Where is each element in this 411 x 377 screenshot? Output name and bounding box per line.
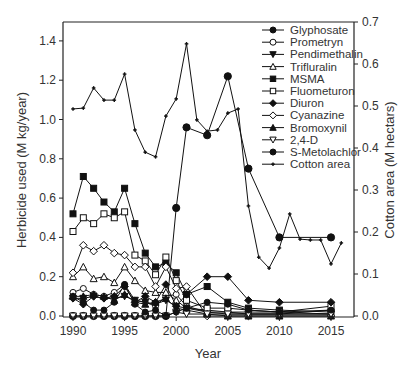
circle-marker-icon — [245, 307, 251, 313]
legend-label: Glyphosate — [290, 24, 348, 36]
circle-marker-icon — [142, 309, 148, 315]
square-marker-icon — [80, 215, 86, 221]
legend-item-msma: MSMA — [262, 73, 325, 85]
diamond-marker-icon — [152, 283, 160, 291]
x-tick-label: 1995 — [111, 324, 138, 338]
circle-marker-icon — [270, 149, 276, 155]
circle-marker-icon — [184, 305, 190, 311]
circle-marker-icon — [163, 313, 169, 319]
y2-tick-label: 0.5 — [362, 99, 379, 113]
triangle-up-marker-icon — [100, 273, 107, 280]
legend-item-2-4-d: 2,4-D — [262, 134, 318, 146]
circle-marker-icon — [91, 307, 97, 313]
legend-label: MSMA — [290, 73, 325, 85]
circle-marker-icon — [270, 27, 276, 33]
diamond-marker-icon — [69, 269, 77, 277]
circle-marker-icon — [183, 124, 190, 131]
legend-label: Cyanazine — [290, 109, 344, 121]
y2-tick-label: 0.2 — [362, 225, 379, 239]
x-tick-label: 2000 — [163, 324, 190, 338]
square-marker-icon — [101, 211, 107, 217]
square-marker-icon — [91, 185, 97, 191]
square-marker-icon — [153, 272, 159, 278]
circle-marker-icon — [173, 204, 180, 211]
square-marker-icon — [70, 229, 76, 235]
circle-marker-icon — [153, 307, 159, 313]
legend-label: Cotton area — [290, 158, 351, 170]
legend-label: Diuron — [290, 97, 324, 109]
y2-tick-label: 0.1 — [362, 267, 379, 281]
square-marker-icon — [132, 221, 138, 227]
diamond-marker-icon — [90, 247, 98, 255]
square-marker-icon — [270, 88, 275, 93]
square-marker-icon — [91, 221, 97, 227]
square-marker-icon — [204, 284, 210, 290]
x-tick-label: 2010 — [266, 324, 293, 338]
circle-marker-icon — [276, 309, 282, 315]
y2-tick-label: 0.3 — [362, 183, 379, 197]
circle-marker-icon — [122, 282, 128, 288]
x-tick-label: 2005 — [214, 324, 241, 338]
square-marker-icon — [101, 199, 107, 205]
square-marker-icon — [122, 185, 128, 191]
y-tick-label: 0.0 — [39, 309, 56, 323]
series-bromoxynil — [70, 291, 335, 319]
x-tick-label: 1990 — [60, 324, 87, 338]
legend-label: Fluometuron — [290, 85, 355, 97]
square-marker-icon — [80, 173, 86, 179]
square-marker-icon — [122, 209, 128, 215]
circle-marker-icon — [80, 299, 86, 305]
square-marker-icon — [70, 211, 76, 217]
square-marker-icon — [153, 264, 159, 270]
legend-item-cyanazine: Cyanazine — [262, 109, 344, 121]
circle-marker-icon — [270, 39, 276, 45]
legend-item-trifluralin: Trifluralin — [262, 61, 337, 73]
triangle-up-marker-icon — [80, 263, 87, 270]
square-marker-icon — [111, 215, 117, 221]
circle-marker-icon — [173, 309, 179, 315]
x-tick-label: 2015 — [318, 324, 345, 338]
circle-marker-icon — [132, 301, 138, 307]
circle-marker-icon — [328, 307, 334, 313]
circle-marker-icon — [327, 234, 334, 241]
legend-item-bromoxynil: Bromoxynil — [262, 122, 347, 134]
y2-tick-label: 0.6 — [362, 57, 379, 71]
legend-item-diuron: Diuron — [262, 97, 324, 109]
circle-marker-icon — [225, 301, 231, 307]
y-axis-title-left: Herbicide used (M kg/year) — [14, 92, 29, 248]
circle-marker-icon — [80, 285, 86, 291]
legend-label: Trifluralin — [290, 61, 337, 73]
y-tick-label: 1.2 — [39, 73, 56, 87]
square-marker-icon — [173, 278, 179, 284]
legend-item-glyphosate: Glyphosate — [262, 24, 348, 36]
legend-item-prometryn: Prometryn — [262, 36, 343, 48]
y2-tick-label: 0.0 — [362, 309, 379, 323]
legend-label: 2,4-D — [290, 134, 318, 146]
legend-item-s-metolachlor: S-Metolachlor — [262, 146, 361, 158]
y2-tick-label: 0.7 — [362, 15, 379, 29]
y-tick-label: 1.0 — [39, 113, 56, 127]
diamond-marker-icon — [270, 112, 277, 119]
diamond-marker-icon — [270, 100, 277, 107]
square-marker-icon — [270, 76, 275, 81]
y-tick-label: 0.6 — [39, 191, 56, 205]
y-axis-title-right: Cotton area (M hectars) — [382, 101, 397, 238]
y-tick-label: 0.8 — [39, 152, 56, 166]
legend-label: Prometryn — [290, 36, 343, 48]
legend: GlyphosatePrometrynPendimethalinTriflura… — [262, 24, 363, 170]
y-tick-label: 1.4 — [39, 34, 56, 48]
legend-item-cotton-area: Cotton area — [262, 158, 351, 170]
circle-marker-icon — [204, 299, 210, 305]
circle-marker-icon — [101, 307, 107, 313]
triangle-up-marker-icon — [111, 279, 118, 286]
legend-label: Bromoxynil — [290, 122, 347, 134]
series-diuron — [69, 273, 335, 310]
square-marker-icon — [142, 250, 148, 256]
diamond-marker-icon — [80, 241, 88, 249]
x-axis-title: Year — [195, 346, 222, 361]
diamond-marker-icon — [110, 249, 118, 257]
diamond-marker-icon — [276, 298, 284, 306]
square-marker-icon — [111, 209, 117, 215]
diamond-marker-icon — [100, 241, 108, 249]
circle-marker-icon — [70, 293, 76, 299]
